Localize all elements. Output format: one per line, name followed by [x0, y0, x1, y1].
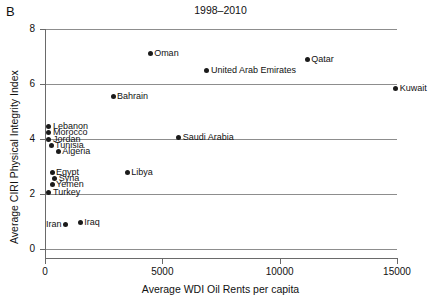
x-tick-mark-15000: [397, 258, 398, 264]
scatter-point-label-algeria: Algeria: [62, 147, 90, 156]
scatter-point-label-iran: Iran: [46, 220, 62, 229]
x-tick-label-15000: 15000: [367, 266, 427, 277]
y-axis-title: Average CIRI Physical Integrity Index: [8, 70, 20, 244]
y-tick-mark-4: [40, 139, 45, 140]
scatter-point-label-kuwait: Kuwait: [400, 84, 427, 93]
y-tick-label-8: 8: [9, 23, 35, 34]
scatter-point-qatar[interactable]: [305, 57, 310, 62]
x-tick-mark-5000: [162, 258, 163, 264]
y-tick-mark-6: [40, 84, 45, 85]
x-axis-title: Average WDI Oil Rents per capita: [0, 283, 441, 295]
x-tick-mark-0: [45, 258, 46, 264]
x-tick-label-5000: 5000: [132, 266, 192, 277]
scatter-point-label-saudi-arabia: Saudi Arabia: [183, 133, 234, 142]
scatter-point-label-iraq: Iraq: [84, 218, 100, 227]
x-tick-label-0: 0: [15, 266, 75, 277]
scatter-point-oman[interactable]: [148, 51, 153, 56]
x-tick-label-10000: 10000: [250, 266, 310, 277]
chart-title: 1998–2010: [0, 4, 441, 16]
gridline-y-2: [45, 194, 397, 195]
scatter-point-kuwait[interactable]: [393, 86, 398, 91]
scatter-point-label-turkey: Turkey: [53, 188, 80, 197]
scatter-point-label-qatar: Qatar: [311, 55, 334, 64]
y-tick-mark-2: [40, 194, 45, 195]
gridline-y-8: [45, 29, 397, 30]
scatter-point-label-united-arab-emirates: United Arab Emirates: [211, 66, 296, 75]
x-tick-mark-10000: [280, 258, 281, 264]
y-tick-mark-0: [40, 249, 45, 250]
scatter-point-label-libya: Libya: [131, 168, 153, 177]
figure-panel-b: B 1998–2010 02468 050001000015000 OmanQa…: [0, 0, 441, 303]
scatter-point-algeria[interactable]: [56, 149, 61, 154]
scatter-point-label-oman: Oman: [154, 49, 179, 58]
scatter-point-yemen[interactable]: [50, 182, 55, 187]
scatter-point-libya[interactable]: [125, 170, 130, 175]
scatter-point-bahrain[interactable]: [111, 94, 116, 99]
y-tick-mark-8: [40, 29, 45, 30]
gridline-y-0: [45, 249, 397, 250]
scatter-point-label-bahrain: Bahrain: [117, 92, 148, 101]
gridline-y-6: [45, 84, 397, 85]
scatter-point-tunisia[interactable]: [49, 143, 54, 148]
x-axis-spine: [45, 258, 397, 259]
scatter-point-egypt[interactable]: [50, 170, 55, 175]
y-tick-label-0: 0: [9, 243, 35, 254]
